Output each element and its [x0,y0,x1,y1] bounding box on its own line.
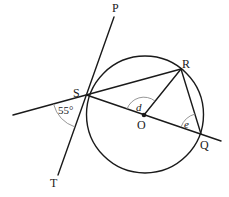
tangent-line-PT [58,17,114,175]
angle-label-d: d [136,101,142,113]
label-T: T [50,176,58,190]
label-Q: Q [200,138,209,152]
center-point-O [142,113,147,118]
label-O: O [137,118,146,132]
label-S: S [73,86,80,100]
circle-theorem-diagram: P S T R O Q 55° d e [0,0,229,197]
label-R: R [182,57,190,71]
angle-label-e: e [184,118,189,130]
radius-OR [144,69,181,115]
angle-label-55: 55° [58,104,73,116]
label-P: P [112,1,119,15]
line-SR-extended [13,69,181,115]
